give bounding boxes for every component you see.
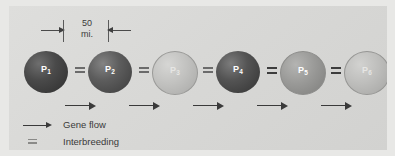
population-p1-label: P1 <box>24 64 68 74</box>
scale-unit: mi. <box>67 29 107 40</box>
interbreeding-symbol-p1-p2 <box>75 67 85 74</box>
gene-flow-arrow-icon-1 <box>65 105 90 106</box>
scale-value: 50 <box>67 18 107 29</box>
gene-flow-row <box>9 101 387 113</box>
arrow-right-icon <box>59 27 65 33</box>
population-p3-label: P3 <box>153 65 197 75</box>
legend: Gene flow Interbreeding <box>21 118 271 150</box>
gene-flow-arrow-icon-4 <box>257 105 282 106</box>
population-row: P1 P2 P3 P4 P5 P6 <box>9 51 387 99</box>
interbreeding-symbol-p5-p6 <box>331 67 341 74</box>
legend-item-interbreeding: Interbreeding <box>21 135 271 150</box>
scale-right-line <box>111 30 131 31</box>
population-p5-label: P5 <box>281 65 325 75</box>
scale-tick-left <box>63 20 64 42</box>
gene-flow-arrow-icon-3 <box>193 105 218 106</box>
population-p1[interactable]: P1 <box>24 51 68 93</box>
scale-bar-label: 50 mi. <box>67 18 107 40</box>
arrow-left-icon <box>107 27 113 33</box>
population-p3[interactable]: P3 <box>152 51 198 95</box>
legend-label-gene-flow: Gene flow <box>63 119 106 130</box>
arrow-right-icon <box>21 118 57 132</box>
equals-icon <box>21 135 57 149</box>
population-p4-label: P4 <box>216 64 260 74</box>
population-p2[interactable]: P2 <box>88 51 132 93</box>
population-p5[interactable]: P5 <box>280 51 326 95</box>
gene-flow-arrow-icon-5 <box>321 105 346 106</box>
scale-bar: 50 mi. <box>35 20 123 54</box>
legend-label-interbreeding: Interbreeding <box>63 136 119 147</box>
scale-left-line <box>41 30 61 31</box>
population-p6[interactable]: P6 <box>344 51 387 95</box>
interbreeding-symbol-p4-p5 <box>267 67 277 74</box>
gene-flow-arrow-icon-2 <box>129 105 154 106</box>
interbreeding-symbol-p3-p4 <box>203 67 213 74</box>
legend-item-gene-flow: Gene flow <box>21 118 271 135</box>
population-p6-label: P6 <box>345 65 387 75</box>
population-p2-label: P2 <box>88 64 132 74</box>
figure-panel: 50 mi. P1 P2 P3 P4 P5 P6 <box>9 6 387 150</box>
interbreeding-symbol-p2-p3 <box>139 67 149 74</box>
population-p4[interactable]: P4 <box>216 51 260 93</box>
